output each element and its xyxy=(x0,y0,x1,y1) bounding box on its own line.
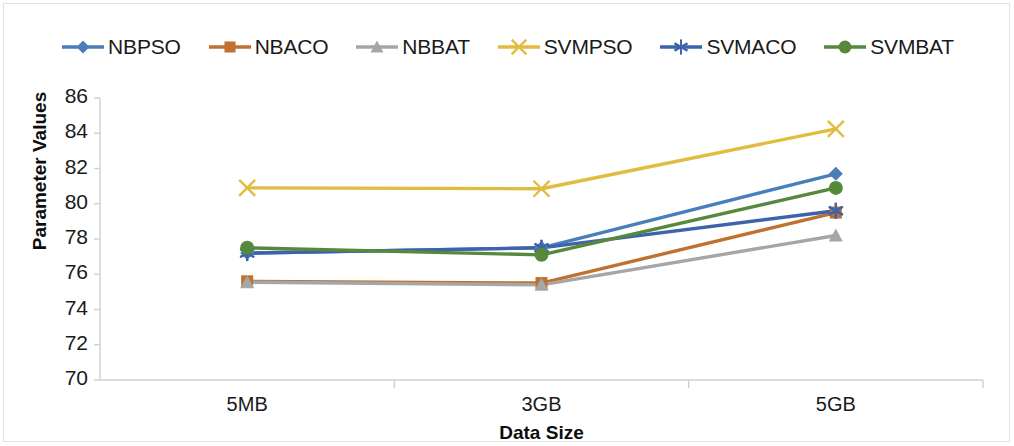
y-axis-tick-label: 78 xyxy=(42,225,88,249)
x-axis-tick-label: 5GB xyxy=(689,393,983,416)
plot-canvas xyxy=(0,0,1014,446)
x-axis-tick-label: 5MB xyxy=(100,393,394,416)
y-axis-tick-label: 86 xyxy=(42,84,88,108)
y-axis-tick-label: 74 xyxy=(42,296,88,320)
y-axis-tick-label: 80 xyxy=(42,190,88,214)
x-axis-title: Data Size xyxy=(100,422,983,444)
plot-area: Parameter Values 868482807876747270 5MB3… xyxy=(0,0,1014,446)
y-axis-tick-label: 82 xyxy=(42,155,88,179)
x-axis-tick-label: 3GB xyxy=(394,393,688,416)
line-chart: NBPSONBACONBBATSVMPSOSVMACOSVMBAT Parame… xyxy=(0,0,1014,446)
y-axis-tick-label: 72 xyxy=(42,331,88,355)
y-axis-tick-label: 70 xyxy=(42,366,88,390)
y-axis-tick-label: 84 xyxy=(42,119,88,143)
y-axis-tick-label: 76 xyxy=(42,260,88,284)
